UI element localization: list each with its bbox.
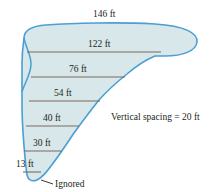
label-54ft: 54 ft (54, 89, 72, 99)
ignored-label: Ignored (55, 180, 85, 190)
label-13ft: 13 ft (16, 160, 34, 170)
label-146ft: 146 ft (93, 10, 115, 20)
label-30ft: 30 ft (33, 139, 51, 149)
figure-container: 146 ft 122 ft 76 ft 54 ft 40 ft 30 ft 13… (0, 0, 220, 192)
label-76ft: 76 ft (69, 65, 87, 75)
label-122ft: 122 ft (88, 40, 110, 50)
vertical-spacing-note: Vertical spacing = 20 ft (111, 113, 200, 123)
ignored-leader-line (41, 180, 53, 184)
label-40ft: 40 ft (43, 114, 61, 124)
